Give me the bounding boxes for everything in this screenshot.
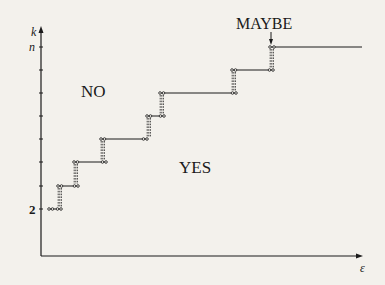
endpoint-dot [48,208,51,211]
endpoint-dot [142,138,145,141]
endpoint-dot [235,92,238,95]
staircase-diagram: k n 2 ε NO YES MAYBE [0,0,385,285]
region-label-maybe: MAYBE [236,15,292,32]
maybe-arrow-icon [269,39,273,45]
endpoint-dot [269,46,272,49]
step-segment [159,92,238,95]
endpoint-dot [73,161,76,164]
step-segment [57,185,80,188]
endpoint-dot [159,92,162,95]
endpoint-dot [272,69,275,72]
step-segment [146,115,166,118]
endpoint-dot [51,208,54,211]
endpoint-dot [56,208,59,211]
y-axis-arrow-icon [39,26,44,33]
endpoint-dot [103,138,106,141]
endpoint-dot [73,185,76,188]
endpoint-dot [146,138,149,141]
endpoint-dot [77,185,80,188]
step-segment [48,208,63,211]
x-axis-label: ε [360,261,365,275]
endpoint-dot [60,185,63,188]
y-axis-label: k [31,25,37,39]
y-tick-label-n: n [29,40,35,54]
endpoint-dot [146,115,149,118]
endpoint-dot [234,69,237,72]
endpoint-dot [149,115,152,118]
step-segment [231,69,275,72]
endpoint-dot [57,185,60,188]
step-segment [269,46,362,49]
endpoint-dot [60,208,63,211]
dashed-risers [58,49,273,207]
endpoint-dot [231,92,234,95]
endpoint-dot [273,46,276,49]
endpoint-dot [101,161,104,164]
endpoint-dot [100,138,103,141]
step-segment [73,161,108,164]
step-segment [100,138,149,141]
endpoint-dot [159,115,162,118]
region-label-no: NO [81,82,106,101]
region-label-yes: YES [179,158,211,177]
endpoint-dot [268,69,271,72]
y-tick-label-2: 2 [29,202,36,217]
endpoint-dot [163,115,166,118]
x-axis-arrow-icon [356,254,363,259]
endpoint-dot [105,161,108,164]
endpoint-dot [231,69,234,72]
endpoint-dot [76,161,79,164]
endpoint-dot [162,92,165,95]
step-levels [48,46,362,211]
